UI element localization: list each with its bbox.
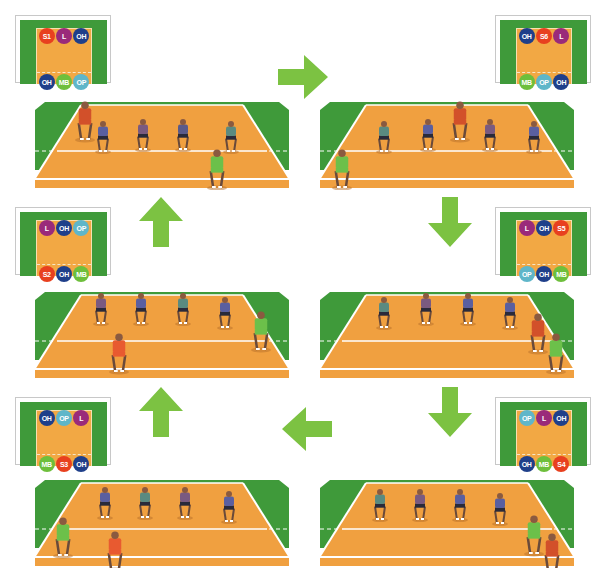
mini-court-surround: LOHS5OPOHMB	[500, 212, 587, 276]
position-chip-outside-hitter: OH	[536, 220, 552, 236]
position-chip-outside-hitter: OH	[39, 74, 55, 90]
position-chip-opposite: OP	[519, 410, 535, 426]
position-chip-outside-hitter: OH	[519, 456, 535, 472]
position-chip-outside-hitter: OH	[73, 456, 89, 472]
mini-court: OHS6LMBOPOH	[516, 28, 572, 84]
position-chip-libero: L	[73, 410, 89, 426]
rotation-chart-s1: S1LOHOHMBOP	[15, 15, 111, 83]
position-chip-libero: L	[536, 410, 552, 426]
position-chip-outside-hitter: OH	[519, 28, 535, 44]
front-row: LOHS5	[517, 220, 571, 236]
position-chip-setter: S5	[553, 220, 569, 236]
position-chip-opposite: OP	[56, 410, 72, 426]
mini-court-surround: OHS6LMBOPOH	[500, 20, 587, 84]
front-row: S1LOH	[37, 28, 91, 44]
back-row: MBS3OH	[37, 456, 91, 472]
position-chip-libero: L	[56, 28, 72, 44]
arrow-up-icon	[139, 197, 183, 251]
position-chip-middle-blocker: MB	[519, 74, 535, 90]
mini-court: OHOPLMBS3OH	[36, 410, 92, 466]
mini-court: OPLOHOHMBS4	[516, 410, 572, 466]
position-chip-opposite: OP	[519, 266, 535, 282]
mini-attack-line	[37, 454, 91, 455]
court-scene-s2	[35, 290, 289, 378]
mini-attack-line	[517, 264, 571, 265]
arrow-up-icon	[139, 387, 183, 441]
mini-attack-line	[37, 264, 91, 265]
position-chip-opposite: OP	[73, 220, 89, 236]
position-chip-outside-hitter: OH	[553, 410, 569, 426]
position-chip-outside-hitter: OH	[39, 410, 55, 426]
position-chip-outside-hitter: OH	[73, 28, 89, 44]
court-scene-s6	[320, 100, 574, 188]
back-row: S2OHMB	[37, 266, 91, 282]
position-chip-setter: S6	[536, 28, 552, 44]
position-chip-setter: S2	[39, 266, 55, 282]
court-scene-s5	[320, 290, 574, 378]
court-scene-s4	[320, 478, 574, 566]
rotation-chart-s2: LOHOPS2OHMB	[15, 207, 111, 275]
arrow-down-icon	[428, 387, 472, 441]
back-row: OPOHMB	[517, 266, 571, 282]
arrow-right-icon	[278, 55, 328, 103]
mini-court: LOHS5OPOHMB	[516, 220, 572, 276]
front-row: OHS6L	[517, 28, 571, 44]
mini-court: LOHOPS2OHMB	[36, 220, 92, 276]
back-row: OHMBS4	[517, 456, 571, 472]
position-chip-opposite: OP	[536, 74, 552, 90]
mini-court: S1LOHOHMBOP	[36, 28, 92, 84]
position-chip-libero: L	[553, 28, 569, 44]
front-row: OPLOH	[517, 410, 571, 426]
mini-court-surround: LOHOPS2OHMB	[20, 212, 107, 276]
mini-court-surround: S1LOHOHMBOP	[20, 20, 107, 84]
mini-attack-line	[517, 72, 571, 73]
position-chip-opposite: OP	[73, 74, 89, 90]
rotation-chart-s4: OPLOHOHMBS4	[495, 397, 591, 465]
back-row: MBOPOH	[517, 74, 571, 90]
court-scene-s1	[35, 100, 289, 188]
position-chip-setter: S1	[39, 28, 55, 44]
arrow-down-icon	[428, 197, 472, 251]
position-chip-setter: S3	[56, 456, 72, 472]
position-chip-libero: L	[39, 220, 55, 236]
position-chip-middle-blocker: MB	[73, 266, 89, 282]
rotation-chart-s3: OHOPLMBS3OH	[15, 397, 111, 465]
mini-attack-line	[37, 72, 91, 73]
position-chip-middle-blocker: MB	[553, 266, 569, 282]
mini-attack-line	[517, 454, 571, 455]
mini-court-surround: OHOPLMBS3OH	[20, 402, 107, 466]
court-scene-s3	[35, 478, 289, 566]
arrow-left-icon	[282, 407, 332, 455]
position-chip-middle-blocker: MB	[56, 74, 72, 90]
rotation-chart-s6: OHS6LMBOPOH	[495, 15, 591, 83]
position-chip-outside-hitter: OH	[553, 74, 569, 90]
position-chip-outside-hitter: OH	[56, 220, 72, 236]
rotation-chart-s5: LOHS5OPOHMB	[495, 207, 591, 275]
position-chip-middle-blocker: MB	[536, 456, 552, 472]
position-chip-libero: L	[519, 220, 535, 236]
mini-court-surround: OPLOHOHMBS4	[500, 402, 587, 466]
front-row: OHOPL	[37, 410, 91, 426]
position-chip-setter: S4	[553, 456, 569, 472]
front-row: LOHOP	[37, 220, 91, 236]
back-row: OHMBOP	[37, 74, 91, 90]
position-chip-middle-blocker: MB	[39, 456, 55, 472]
position-chip-outside-hitter: OH	[56, 266, 72, 282]
position-chip-outside-hitter: OH	[536, 266, 552, 282]
